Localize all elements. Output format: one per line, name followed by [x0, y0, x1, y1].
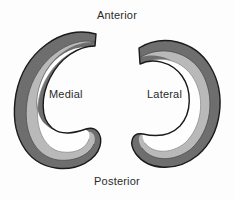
medial-meniscus-label: Medial — [49, 88, 83, 100]
anterior-label: Anterior — [0, 9, 234, 21]
diagram-canvas — [0, 0, 234, 200]
posterior-label: Posterior — [0, 175, 234, 187]
meniscus-diagram: Anterior Posterior Medial Lateral — [0, 0, 234, 200]
lateral-meniscus-label: Lateral — [147, 88, 182, 100]
